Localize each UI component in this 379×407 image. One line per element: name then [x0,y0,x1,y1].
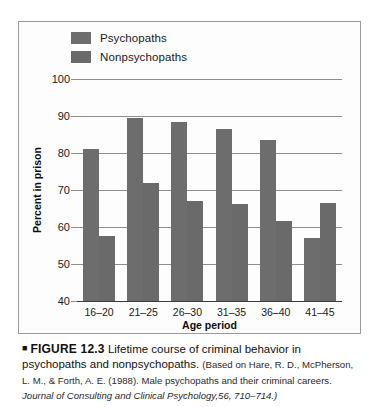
caption-volume-pages: 56, 710–714.) [218,390,277,401]
bar [304,238,320,301]
y-axis-tick-mark [71,301,77,302]
bar [276,221,292,301]
y-axis-label: Percent in prison [30,79,44,301]
bar [83,149,99,301]
caption-journal: Journal of Consulting and Clinical Psych… [22,390,218,401]
x-axis-label: Age period [77,319,342,331]
legend-item-label: Psychopaths [100,32,167,44]
bar [127,118,143,301]
legend-item-nonpsychopaths: Nonpsychopaths [71,47,187,66]
bar [320,203,336,301]
caption-marker-icon: ■ [22,343,27,353]
chart-legend: Psychopaths Nonpsychopaths [71,28,187,66]
bar [260,140,276,301]
x-axis-tick-label: 31–35 [217,306,246,318]
caption-figure-number: FIGURE 12.3 [30,342,104,356]
y-axis-tick-label: 50 [58,258,70,270]
y-axis-tick-label: 100 [52,73,70,85]
gridline [77,301,342,302]
bar [187,201,203,301]
x-axis-tick-label: 41–45 [305,306,334,318]
bar-series-container [77,79,342,301]
y-axis-tick-label: 90 [58,110,70,122]
bar [171,122,187,301]
legend-item-psychopaths: Psychopaths [71,28,187,47]
y-axis-tick-label: 80 [58,147,70,159]
x-axis-tick-label: 36–40 [261,306,290,318]
legend-swatch-icon [71,32,91,44]
y-axis-tick-label: 40 [58,295,70,307]
figure-panel: Psychopaths Nonpsychopaths Percent in pr… [18,21,361,334]
bar [232,204,248,301]
x-axis-tick-label: 16–20 [84,306,113,318]
figure-caption: ■FIGURE 12.3 Lifetime course of criminal… [22,341,362,404]
x-axis-tick-label: 26–30 [173,306,202,318]
bar [216,129,232,301]
y-axis-tick-label: 60 [58,221,70,233]
y-axis-tick-label: 70 [58,184,70,196]
legend-swatch-icon [71,51,91,63]
plot-area: 405060708090100 16–2021–2526–3031–3536–4… [77,79,342,301]
bar [143,183,159,301]
legend-item-label: Nonpsychopaths [100,51,187,63]
bar [99,236,115,301]
x-axis-tick-label: 21–25 [129,306,158,318]
caption-body: ■FIGURE 12.3 Lifetime course of criminal… [22,341,362,404]
